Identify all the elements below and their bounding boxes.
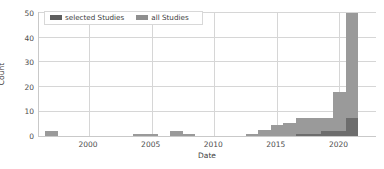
gridline-v-2010 [214,12,215,136]
bar-2014 [258,130,271,136]
x-tick-label-2015: 2015 [266,141,285,149]
x-axis-ticks: 20002005201020152020 [38,137,376,149]
y-tick-label-30: 30 [24,60,34,68]
bar-segment-all-studies-2007 [170,131,183,136]
bar-2013 [246,134,259,136]
bar-segment-selected-studies-2021 [346,118,359,136]
legend-entry-all-studies: all Studies [136,14,188,21]
bar-2015 [271,125,284,136]
gridline-v-2005 [152,12,153,136]
bar-2016 [283,123,296,136]
x-tick-label-2010: 2010 [204,141,223,149]
bar-1997 [45,131,58,136]
legend-label-all-studies: all Studies [151,14,188,21]
bar-2004 [133,134,146,136]
y-tick-label-50: 50 [24,11,34,19]
bar-segment-selected-studies-2019 [321,131,334,136]
chart-legend: selected Studies all Studies [44,11,203,25]
bar-segment-all-studies-2004 [133,134,146,136]
bar-2007 [170,131,183,136]
bar-segment-all-studies-2015 [271,125,284,136]
y-tick-label-40: 40 [24,35,34,43]
bar-2019 [321,118,334,136]
gridline-v-2000 [89,12,90,136]
legend-label-selected-studies: selected Studies [65,14,124,21]
bar-2017 [296,118,309,136]
bar-segment-all-studies-2020 [333,92,346,136]
gridline-v-2015 [277,12,278,136]
x-axis-label: Date [198,152,216,160]
y-axis-label: Count [0,63,6,85]
bar-segment-all-studies-2005 [145,134,158,136]
x-tick-label-2020: 2020 [329,141,348,149]
bar-2020 [333,92,346,136]
bar-2018 [308,118,321,136]
bar-segment-all-studies-1997 [45,131,58,136]
selected-studies-swatch [50,15,62,20]
chart-figure: 01020304050 Count 20002005201020152020 D… [0,0,384,169]
x-tick-label-2000: 2000 [79,141,98,149]
bar-segment-all-studies-2008 [183,134,196,136]
bar-2005 [145,134,158,136]
all-studies-swatch [136,15,148,20]
bar-segment-all-studies-2016 [283,123,296,136]
bar-2008 [183,134,196,136]
y-tick-label-10: 10 [24,109,34,117]
plot-area [38,12,376,137]
bar-segment-selected-studies-2020 [333,131,346,136]
x-tick-label-2005: 2005 [141,141,160,149]
bar-segment-all-studies-2013 [246,134,259,136]
bar-2021 [346,13,359,136]
legend-entry-selected-studies: selected Studies [50,14,124,21]
y-tick-label-0: 0 [29,133,34,141]
y-tick-label-20: 20 [24,84,34,92]
bar-segment-all-studies-2014 [258,130,271,136]
bar-segment-selected-studies-2018 [308,134,321,136]
bar-segment-selected-studies-2017 [296,134,309,136]
